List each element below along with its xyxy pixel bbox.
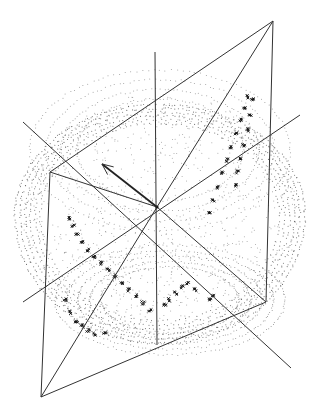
coordinate-axes [23, 52, 300, 368]
upper-right-cluster [207, 94, 254, 214]
3d-point-cloud-diagram [0, 0, 309, 415]
diagonal-axis-1 [23, 115, 300, 302]
diagram-svg [0, 0, 309, 415]
lower-right-cluster [162, 281, 215, 306]
lower-left-cluster [63, 298, 108, 337]
plane-spoke-1 [157, 207, 266, 302]
plane-spoke-0 [157, 21, 273, 207]
point-cloud [13, 69, 306, 356]
direction-arrow-icon [102, 164, 157, 207]
plane-spoke-2 [41, 207, 157, 397]
vertical-axis [155, 52, 157, 345]
highlighted-clusters [63, 94, 255, 336]
